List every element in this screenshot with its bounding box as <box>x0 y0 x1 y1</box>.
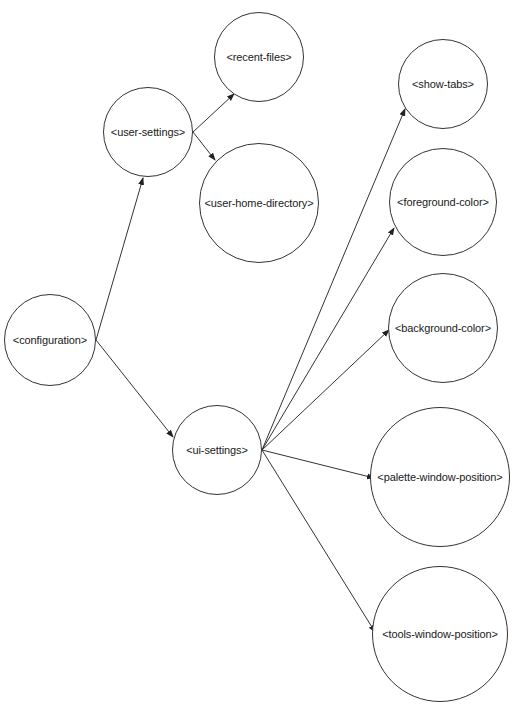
node-ui-settings: <ui-settings> <box>172 405 262 495</box>
node-label: <user-home-directory> <box>204 197 313 209</box>
edge-configuration-to-ui-settings <box>96 340 173 437</box>
node-background-color: <background-color> <box>388 273 498 383</box>
node-show-tabs: <show-tabs> <box>398 39 488 129</box>
node-label: <recent-files> <box>226 51 291 63</box>
node-recent-files: <recent-files> <box>214 12 304 102</box>
node-label: <tools-window-position> <box>382 628 498 640</box>
edge-ui-settings-to-background-color <box>262 330 389 450</box>
node-user-settings: <user-settings> <box>103 87 193 177</box>
node-label: <foreground-color> <box>397 196 489 208</box>
node-label: <palette-window-position> <box>377 471 502 483</box>
node-user-home-directory: <user-home-directory> <box>199 143 319 263</box>
node-configuration: <configuration> <box>4 294 96 386</box>
edge-user-settings-to-recent-files <box>193 94 234 132</box>
node-label: <user-settings> <box>111 126 185 138</box>
node-label: <show-tabs> <box>412 78 474 90</box>
node-palette-window-position: <palette-window-position> <box>370 407 510 547</box>
node-tools-window-position: <tools-window-position> <box>372 566 508 702</box>
edge-configuration-to-user-settings <box>96 178 143 340</box>
edge-user-settings-to-user-home-directory <box>193 132 215 160</box>
diagram-canvas: <configuration><user-settings><recent-fi… <box>0 0 517 714</box>
node-foreground-color: <foreground-color> <box>389 148 497 256</box>
node-label: <ui-settings> <box>186 444 248 456</box>
edge-ui-settings-to-tools-window-position <box>262 450 375 632</box>
node-label: <configuration> <box>13 334 87 346</box>
edge-ui-settings-to-palette-window-position <box>262 450 374 478</box>
node-label: <background-color> <box>395 322 491 334</box>
edge-ui-settings-to-foreground-color <box>262 228 394 450</box>
